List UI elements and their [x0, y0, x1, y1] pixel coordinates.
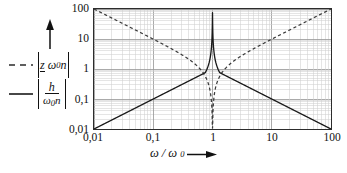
y-tick-label: 1 [47, 63, 89, 74]
y-tick-label: 100 [47, 3, 89, 14]
y-tick-label: 10 [47, 33, 89, 44]
data-curves [94, 9, 331, 129]
x-axis-title-omega: ω [150, 146, 159, 161]
x-axis-title-omega0-sub: 0 [180, 149, 184, 159]
x-axis-direction-arrow-icon [187, 150, 217, 159]
x-axis-title: ω/ω0 [150, 146, 217, 161]
x-axis-title-omega0: ω [168, 146, 177, 161]
x-tick-label: 0,01 [70, 132, 116, 143]
plot-area [93, 8, 332, 130]
chart-figure: z ω0n h ω0n 100 10 1 0,1 0, [0, 0, 347, 173]
x-tick-label: 1 [190, 132, 236, 143]
x-tick-label: 100 [309, 132, 347, 143]
x-tick-label: 10 [249, 132, 295, 143]
y-tick-label: 0,1 [47, 94, 89, 105]
x-tick-label: 0,1 [130, 132, 176, 143]
x-axis-title-slash: / [162, 146, 165, 161]
